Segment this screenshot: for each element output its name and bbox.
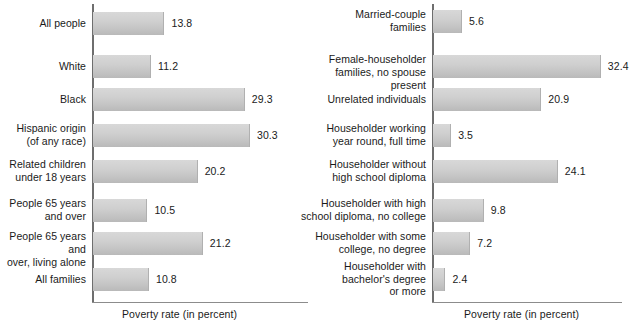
chart-panel-left: Poverty rate (in percent) All people13.8…	[0, 0, 314, 334]
bar-value-label: 2.4	[452, 273, 467, 285]
bar-value-label: 32.4	[608, 60, 629, 72]
bar-category-label: Householder with highschool diploma, no …	[300, 197, 426, 222]
bar	[433, 55, 601, 78]
bar	[433, 268, 445, 291]
bar	[433, 160, 558, 183]
bar-category-label-line: Related children	[9, 158, 86, 170]
bar-category-label-line: Householder working	[326, 122, 426, 134]
bar-category-label-line: Householder without	[329, 158, 426, 170]
bar-category-label-line: Householder with some	[315, 230, 426, 242]
bar-row: Householder withouthigh school diploma24…	[314, 160, 628, 183]
bar-value-label: 7.2	[477, 237, 492, 249]
bar-value-label: 11.2	[158, 60, 178, 72]
bar-category-label: Black	[0, 93, 86, 106]
bar-category-label-line: under 18 years	[15, 171, 86, 183]
y-axis-line-left	[92, 4, 94, 302]
bar-value-label: 20.9	[548, 93, 569, 105]
bar-category-label-line: Black	[60, 93, 86, 105]
bar-category-label-line: school diploma, no college	[301, 210, 426, 222]
bar	[93, 55, 151, 78]
bar-category-label-line: Hispanic origin	[16, 122, 86, 134]
bar-row: Related childrenunder 18 years20.2	[0, 160, 314, 183]
bar-category-label-line: People 65 years and	[9, 230, 86, 255]
bar-category-label-line: families	[390, 21, 426, 33]
bar-value-label: 9.8	[491, 204, 506, 216]
bar	[433, 124, 451, 147]
bar-category-label: Householder with somecollege, no degree	[300, 230, 426, 255]
bar-category-label: Married-couplefamilies	[300, 8, 426, 33]
bar	[93, 88, 245, 111]
bar	[433, 10, 462, 33]
bar-category-label-line: college, no degree	[339, 243, 426, 255]
bar-category-label-line: White	[59, 60, 86, 72]
bar-category-label: People 65 years andover, living alone	[0, 230, 86, 268]
bar-row: All people13.8	[0, 12, 314, 35]
bar	[93, 232, 203, 255]
bar-row: Householder with somecollege, no degree7…	[314, 232, 628, 255]
bar-row: All families10.8	[0, 268, 314, 291]
bar-category-label-line: Female-householder	[329, 53, 426, 65]
bar-row: Married-couplefamilies5.6	[314, 10, 628, 33]
bar	[433, 232, 470, 255]
bar	[433, 199, 484, 222]
bar-category-label-line: All families	[35, 273, 86, 285]
bar-row: Black29.3	[0, 88, 314, 111]
bar-row: White11.2	[0, 55, 314, 78]
x-axis-title-left: Poverty rate (in percent)	[122, 308, 237, 320]
x-axis-title-right: Poverty rate (in percent)	[464, 308, 579, 320]
bar-row: Female-householderfamilies, no spouse pr…	[314, 55, 628, 78]
bar-category-label-line: or more	[389, 285, 426, 297]
x-axis-line-right	[432, 302, 622, 303]
bar-value-label: 10.8	[156, 273, 177, 285]
bar-value-label: 29.3	[252, 93, 273, 105]
bar	[93, 160, 198, 183]
bar-category-label-line: families, no spouse present	[335, 66, 426, 91]
bar-category-label: Householder workingyear round, full time	[300, 122, 426, 147]
bar	[433, 88, 541, 111]
bar-category-label: Unrelated individuals	[300, 93, 426, 106]
bar-category-label-line: Married-couple	[355, 8, 426, 20]
bar	[93, 268, 149, 291]
bar-value-label: 5.6	[469, 15, 484, 27]
bar-row: People 65 yearsand over10.5	[0, 199, 314, 222]
bar-category-label-line: bachelor's degree	[342, 273, 426, 285]
bar-value-label: 21.2	[210, 237, 231, 249]
chart-panel-right: Poverty rate (in percent) Married-couple…	[314, 0, 628, 334]
bar-category-label-line: Householder with high	[321, 197, 426, 209]
bar-category-label: Householder withbachelor's degreeor more	[300, 260, 426, 298]
bar-category-label: All people	[0, 17, 86, 30]
bar-category-label-line: People 65 years	[9, 197, 86, 209]
bar-value-label: 10.5	[154, 204, 175, 216]
bar-category-label-line: over, living alone	[7, 256, 86, 268]
bar-value-label: 30.3	[257, 129, 278, 141]
bar-row: Householder with highschool diploma, no …	[314, 199, 628, 222]
bar-category-label-line: high school diploma	[332, 171, 426, 183]
bar-row: Unrelated individuals20.9	[314, 88, 628, 111]
bar-value-label: 13.8	[171, 17, 192, 29]
bar-value-label: 3.5	[458, 129, 473, 141]
bar-category-label: Householder withouthigh school diploma	[300, 158, 426, 183]
bar-category-label-line: year round, full time	[333, 135, 426, 147]
bar-value-label: 20.2	[205, 165, 226, 177]
bar	[93, 12, 164, 35]
bar-category-label-line: All people	[39, 17, 86, 29]
y-axis-line-right	[432, 4, 434, 302]
x-axis-line-left	[92, 302, 308, 303]
bar-category-label-line: (of any race)	[26, 135, 86, 147]
bar-category-label-line: and over	[45, 210, 86, 222]
bar-category-label-line: Unrelated individuals	[327, 93, 426, 105]
bar-row: People 65 years andover, living alone21.…	[0, 232, 314, 255]
bar-category-label: Hispanic origin(of any race)	[0, 122, 86, 147]
bar-row: Householder workingyear round, full time…	[314, 124, 628, 147]
bar-category-label: Related childrenunder 18 years	[0, 158, 86, 183]
bar-row: Hispanic origin(of any race)30.3	[0, 124, 314, 147]
bar-category-label-line: Householder with	[344, 260, 426, 272]
bar-category-label: White	[0, 60, 86, 73]
bar	[93, 124, 250, 147]
bar-category-label: All families	[0, 273, 86, 286]
bar-value-label: 24.1	[565, 165, 586, 177]
bar	[93, 199, 147, 222]
bar-category-label: People 65 yearsand over	[0, 197, 86, 222]
bar-category-label: Female-householderfamilies, no spouse pr…	[300, 53, 426, 91]
